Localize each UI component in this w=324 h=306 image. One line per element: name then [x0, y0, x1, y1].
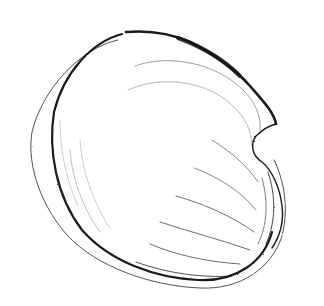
shell-dorsal-ridge: [126, 31, 276, 124]
shell-inner-edge: [52, 34, 272, 280]
clam-shell-illustration: [0, 0, 324, 306]
shell-umbo: [253, 124, 283, 248]
illustration-canvas: [0, 0, 324, 306]
